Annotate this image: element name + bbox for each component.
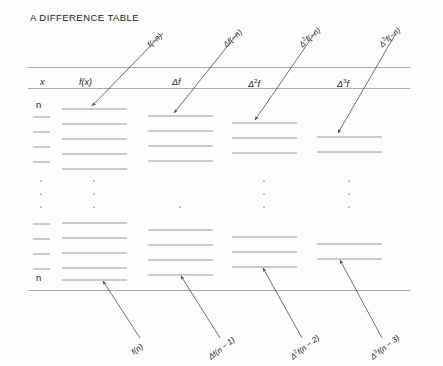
ellipsis-dot (179, 206, 181, 208)
leader-arrow-delta2-f-minus-n (255, 33, 315, 120)
table-horizontal-rules (28, 68, 410, 291)
ellipsis-dot (93, 206, 95, 208)
column-delta3-f-value-slots (317, 137, 382, 259)
column-delta-f-value-slots (148, 116, 213, 275)
column-x-value-slots (33, 117, 50, 269)
difference-table-figure: A DIFFERENCE TABLE x f(x) Δf Δ2f Δ3f n n… (0, 0, 443, 366)
top-leader-arrows (92, 33, 396, 133)
leader-arrow-delta-f-n-1 (181, 276, 220, 338)
ellipsis-dot (40, 193, 42, 195)
leader-arrow-delta3-f-n-3 (340, 260, 382, 338)
ellipsis-dot (263, 180, 265, 182)
ellipsis-dot (93, 193, 95, 195)
leader-arrow-delta3-f-minus-n (338, 33, 396, 133)
bottom-leader-arrows (103, 260, 382, 338)
ellipsis-dot (348, 206, 350, 208)
ellipsis-dot (263, 193, 265, 195)
column-delta2-f-value-slots (232, 123, 297, 267)
ellipsis-dot (40, 206, 42, 208)
ellipsis-dot (348, 180, 350, 182)
ellipsis-dot (40, 180, 42, 182)
leader-arrow-f-n (103, 281, 140, 338)
ellipsis-dot (348, 193, 350, 195)
leader-arrow-delta2-f-n-2 (263, 268, 302, 338)
ellipsis-dot (93, 180, 95, 182)
leader-arrow-f-minus-n (92, 33, 163, 106)
ellipsis-dot (263, 206, 265, 208)
table-rules-and-arrows (0, 0, 443, 366)
leader-arrow-delta-f-minus-n (174, 33, 238, 113)
ellipsis-dots (40, 180, 350, 208)
